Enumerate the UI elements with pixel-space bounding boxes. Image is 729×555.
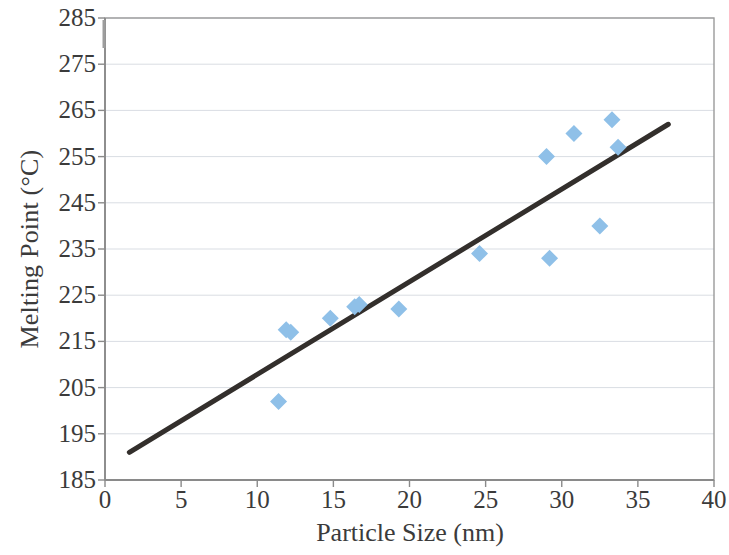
data-point-marker [390, 301, 407, 318]
data-point-marker [538, 148, 555, 165]
data-point-marker [565, 125, 582, 142]
gridlines [105, 18, 714, 434]
trendline-segment [129, 124, 668, 452]
data-point-marker [591, 217, 608, 234]
plot-area [0, 0, 729, 555]
y-axis-ticks [98, 18, 105, 480]
data-point-marker [471, 245, 488, 262]
data-point-marker [541, 250, 558, 267]
data-point-marker [603, 111, 620, 128]
trendline [129, 124, 668, 452]
x-axis-ticks [105, 480, 714, 487]
scatter-chart: Melting Point (°C) 185195205215225235245… [0, 0, 729, 555]
data-point-marker [270, 393, 287, 410]
